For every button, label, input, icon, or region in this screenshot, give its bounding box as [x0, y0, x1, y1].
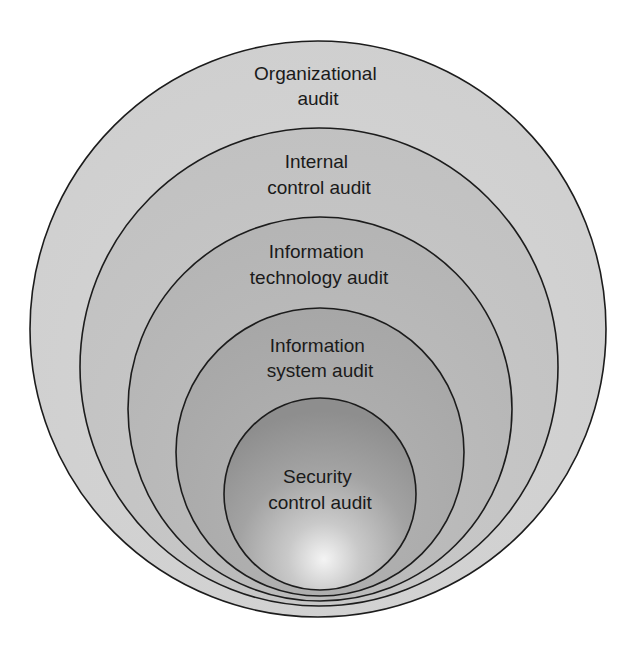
nested-audit-diagram: Organizational audit Internal control au…: [0, 0, 638, 656]
label-line: system audit: [267, 360, 374, 381]
label-line: Organizational: [254, 63, 377, 84]
label-line: Security: [283, 466, 352, 487]
label-line: Internal: [285, 151, 348, 172]
label-line: audit: [297, 88, 339, 109]
label-line: control audit: [267, 177, 371, 198]
label-line: Information: [270, 335, 365, 356]
layer-security-control-audit: Security control audit: [224, 398, 416, 590]
label-line: control audit: [268, 492, 372, 513]
label-line: technology audit: [250, 267, 389, 288]
label-line: Information: [269, 241, 364, 262]
